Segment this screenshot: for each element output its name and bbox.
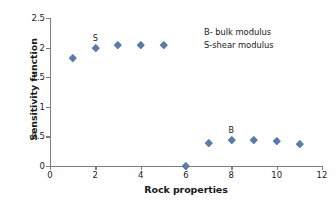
y-tick-mark xyxy=(46,77,50,78)
data-point-marker xyxy=(205,138,213,146)
data-point-marker xyxy=(273,137,281,145)
x-tick-label: 8 xyxy=(229,170,234,180)
y-tick-label: 1 xyxy=(40,102,45,112)
x-tick-label: 10 xyxy=(271,170,282,180)
data-point-marker xyxy=(182,162,190,170)
y-tick-mark xyxy=(46,18,50,19)
data-point-marker xyxy=(137,41,145,49)
y-tick-mark xyxy=(46,48,50,49)
x-tick-label: 12 xyxy=(317,170,328,180)
data-point-label: S xyxy=(93,34,98,43)
data-point-marker xyxy=(250,136,258,144)
x-tick-label: 6 xyxy=(183,170,188,180)
data-point-marker xyxy=(159,41,167,49)
data-point-marker xyxy=(69,54,77,62)
legend-annotations: B- bulk modulus S-shear modulus xyxy=(204,26,274,51)
y-tick-label: 2.5 xyxy=(31,13,45,23)
data-point-marker xyxy=(227,136,235,144)
y-tick-label: 0.5 xyxy=(31,131,45,141)
x-tick-label: 2 xyxy=(93,170,98,180)
x-tick-label: 0 xyxy=(47,170,52,180)
plot-area: 00.511.522.5 024681012 SB xyxy=(50,18,322,166)
data-point-marker xyxy=(295,140,303,148)
y-tick-label: 2 xyxy=(40,43,45,53)
y-axis-title: Sensitivity function xyxy=(28,10,39,170)
y-axis-line xyxy=(50,18,51,167)
y-tick-label: 0 xyxy=(40,161,45,171)
data-point-marker xyxy=(91,44,99,52)
y-tick-label: 1.5 xyxy=(31,72,45,82)
legend-entry-bulk: B- bulk modulus xyxy=(204,26,274,39)
x-tick-label: 4 xyxy=(138,170,143,180)
legend-entry-shear: S-shear modulus xyxy=(204,39,274,52)
data-point-label: B xyxy=(229,126,235,135)
data-point-marker xyxy=(114,41,122,49)
y-tick-mark xyxy=(46,136,50,137)
scatter-chart-figure: Sensitivity function 00.511.522.5 024681… xyxy=(0,0,336,204)
y-tick-mark xyxy=(46,107,50,108)
x-axis-title: Rock properties xyxy=(50,184,322,195)
